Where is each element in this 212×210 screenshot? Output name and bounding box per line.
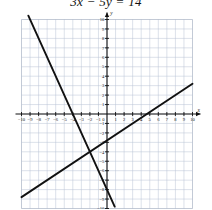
plotted-line [28, 16, 114, 207]
axes [16, 13, 201, 210]
plot-area: −10−9−8−7−6−5−4−3−2−1123456789100−10−9−8… [0, 11, 212, 209]
x-tick-label: 5 [149, 117, 152, 122]
y-tick-label: −4 [100, 150, 106, 155]
x-tick-label: −3 [79, 117, 85, 122]
y-tick-label: −8 [100, 187, 106, 192]
y-axis-label: y [109, 11, 113, 16]
graph-figure: 3x − 5y = 14 −10−9−8−7−6−5−4−3−2−1123456… [0, 0, 212, 209]
y-tick-label: −5 [100, 159, 106, 164]
x-axis-label: x [197, 107, 201, 113]
x-tick-label: −9 [28, 117, 34, 122]
equation-title: 3x − 5y = 14 [0, 0, 212, 10]
x-tick-label: −10 [18, 117, 26, 122]
x-tick-label: 7 [166, 117, 169, 122]
coordinate-plane-svg: −10−9−8−7−6−5−4−3−2−1123456789100−10−9−8… [0, 11, 212, 209]
y-tick-label: −9 [100, 197, 106, 202]
x-tick-label: 1 [114, 117, 117, 122]
y-tick-label: 10 [100, 17, 105, 22]
x-tick-label: −2 [87, 117, 93, 122]
x-tick-label: −7 [45, 117, 51, 122]
y-axis-arrow-icon [105, 13, 109, 18]
x-tick-label: 2 [123, 117, 126, 122]
x-tick-label: −5 [62, 117, 68, 122]
x-tick-label: 9 [183, 117, 186, 122]
x-tick-label: −8 [36, 117, 42, 122]
y-tick-label: −1 [100, 121, 106, 126]
x-tick-label: 8 [174, 117, 177, 122]
x-tick-label: 6 [157, 117, 160, 122]
y-tick-label: −2 [100, 131, 106, 136]
x-tick-label: −6 [53, 117, 59, 122]
x-tick-label: 10 [190, 117, 195, 122]
y-tick-label: −10 [97, 206, 105, 209]
axis-name-labels: xy [109, 11, 200, 113]
